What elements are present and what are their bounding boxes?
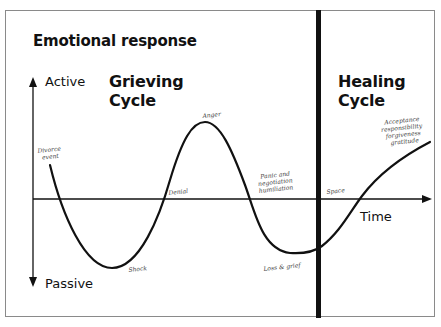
annotation-panic: Panic and negotiation humiliation bbox=[257, 169, 294, 194]
arrow-up-icon bbox=[29, 77, 37, 87]
healing-cycle-title: Healing Cycle bbox=[338, 72, 405, 110]
horizontal-axis bbox=[33, 195, 432, 203]
grieving-title-line1: Grieving bbox=[109, 72, 184, 91]
vertical-axis bbox=[29, 77, 37, 287]
arrow-down-icon bbox=[29, 277, 37, 287]
cycle-divider bbox=[316, 10, 321, 318]
y-axis-top-label: Active bbox=[45, 74, 85, 89]
y-axis-bottom-label: Passive bbox=[45, 276, 93, 291]
grieving-cycle-title: Grieving Cycle bbox=[109, 72, 184, 110]
emotional-curve bbox=[50, 122, 430, 268]
grieving-title-line2: Cycle bbox=[109, 91, 184, 110]
healing-title-line2: Cycle bbox=[338, 91, 405, 110]
healing-title-line1: Healing bbox=[338, 72, 405, 91]
diagram-title: Emotional response bbox=[33, 32, 197, 50]
annotation-divorce-event: Divorce event bbox=[37, 145, 62, 161]
arrow-right-icon bbox=[422, 195, 432, 203]
annotation-acceptance: Acceptance responsibility forgiveness gr… bbox=[380, 115, 424, 147]
x-axis-label: Time bbox=[360, 209, 392, 224]
